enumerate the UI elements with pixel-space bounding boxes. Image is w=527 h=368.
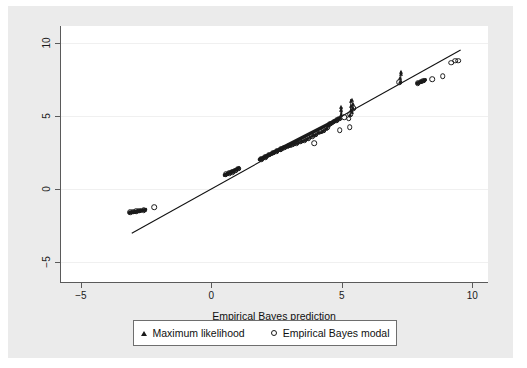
y-tick-label-5: 5 [41, 113, 52, 119]
marker-circle [455, 58, 461, 64]
circle-marker-icon [271, 330, 277, 336]
y-tick-5 [55, 116, 60, 117]
marker-circle [351, 106, 357, 112]
marker-circle [429, 76, 435, 82]
marker-circle [151, 204, 157, 210]
y-tick-10 [55, 43, 60, 44]
x-tick-10 [472, 283, 473, 288]
figure-canvas: −50510 −50510 Empirical Bayes prediction… [8, 6, 513, 358]
plot-region: −50510 −50510 Empirical Bayes prediction [60, 26, 488, 282]
x-tick-5 [342, 283, 343, 288]
marker-triangle [399, 70, 403, 74]
x-tick-label--5: −5 [75, 290, 86, 301]
marker-circle [235, 166, 241, 172]
x-axis-line [60, 282, 488, 283]
y-tick-label-0: 0 [41, 186, 52, 192]
marker-circle [347, 124, 353, 130]
x-tick-label-0: 0 [209, 290, 215, 301]
marker-circle [311, 140, 317, 146]
y-tick-label--5: −5 [41, 256, 52, 267]
triangle-marker-icon [141, 331, 147, 336]
x-tick-0 [211, 283, 212, 288]
marker-circle [440, 74, 446, 80]
x-tick-label-10: 10 [467, 290, 478, 301]
marker-circle [141, 207, 147, 213]
y-tick-0 [55, 189, 60, 190]
marker-triangle [339, 105, 343, 109]
marker-circle [337, 127, 343, 133]
marker-circle [342, 115, 348, 121]
marker-circle [396, 79, 402, 85]
legend-item-empirical-bayes-modal[interactable]: Empirical Bayes modal [271, 327, 390, 339]
legend-label-empirical-bayes-modal: Empirical Bayes modal [283, 327, 390, 339]
y-tick-label-10: 10 [41, 38, 52, 49]
y-axis-line [60, 26, 61, 282]
plot-area [60, 26, 488, 282]
marker-circle [420, 78, 426, 84]
y-tick--5 [55, 262, 60, 263]
x-tick--5 [81, 283, 82, 288]
legend-item-maximum-likelihood[interactable]: Maximum likelihood [141, 327, 245, 339]
legend-label-maximum-likelihood: Maximum likelihood [153, 327, 245, 339]
chart-legend: Maximum likelihood Empirical Bayes modal [133, 320, 397, 346]
x-tick-label-5: 5 [339, 290, 345, 301]
